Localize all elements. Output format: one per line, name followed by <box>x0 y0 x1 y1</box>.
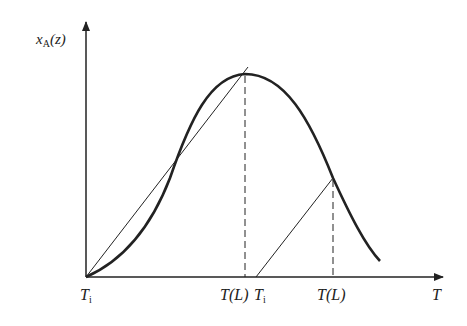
tick-label-ti-2: Ti <box>254 286 266 305</box>
conversion-curve <box>86 74 380 277</box>
operating-line-2 <box>256 178 333 277</box>
operating-line-1 <box>86 67 248 277</box>
tick-label-tl-2: T(L) <box>317 286 345 304</box>
x-axis-label: T <box>432 286 442 303</box>
y-axis-label: xA(z) <box>35 31 66 49</box>
conversion-temperature-diagram: xA(z) T Ti T(L) Ti T(L) <box>0 0 467 326</box>
tick-label-ti-1: Ti <box>80 286 92 305</box>
tick-label-tl-1: T(L) <box>220 286 248 304</box>
